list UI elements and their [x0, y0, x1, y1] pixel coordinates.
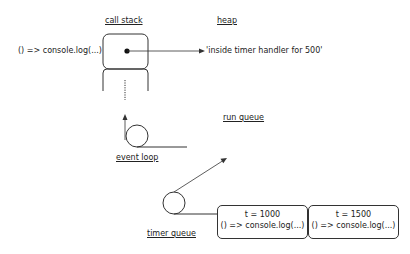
timer-item-callback: () => console.log(...): [218, 220, 307, 231]
event-loop-arrowhead: [123, 114, 128, 120]
heap-arrowhead: [199, 49, 205, 54]
timer-item-callback: () => console.log(...): [309, 220, 398, 231]
heap-value: 'inside timer handler for 500': [206, 47, 322, 55]
timer-to-run-queue-arrow: [174, 160, 224, 192]
call-stack-label: call stack: [105, 17, 143, 25]
timer-item-time: t = 1500: [309, 209, 398, 220]
timer-item-time: t = 1000: [218, 209, 307, 220]
timer-queue-item: t = 1500 () => console.log(...): [308, 205, 399, 239]
heap-label: heap: [217, 17, 237, 25]
call-stack-frame-label: () => console.log(...): [18, 47, 102, 55]
event-loop-circle: [126, 125, 148, 147]
event-loop-label: event loop: [116, 154, 158, 162]
run-queue-arrowhead: [221, 158, 228, 163]
timer-queue-label: timer queue: [147, 230, 196, 238]
timer-queue-circle: [163, 192, 185, 214]
run-queue-label: run queue: [223, 114, 264, 122]
timer-queue-item: t = 1000 () => console.log(...): [217, 205, 308, 239]
